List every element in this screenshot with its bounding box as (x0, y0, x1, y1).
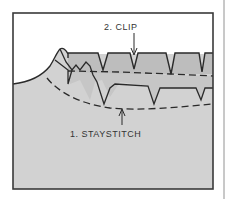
diagram-frame (13, 13, 213, 189)
staystitch-label: 1. STAYSTITCH (70, 129, 141, 139)
sewing-diagram: 2. CLIP 1. STAYSTITCH (0, 0, 227, 199)
clip-label: 2. CLIP (104, 22, 138, 32)
seam-allowance-upper (68, 53, 213, 74)
